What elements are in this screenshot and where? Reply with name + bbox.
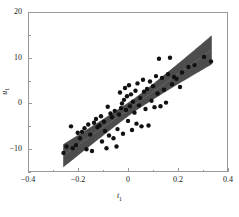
data-point bbox=[209, 59, 213, 63]
data-point bbox=[157, 57, 161, 61]
data-point bbox=[110, 115, 114, 119]
data-point bbox=[162, 88, 166, 92]
plot-frame bbox=[28, 12, 228, 172]
data-point bbox=[78, 136, 82, 140]
data-point bbox=[106, 105, 110, 109]
data-point bbox=[129, 92, 133, 96]
data-point bbox=[151, 84, 155, 88]
data-point bbox=[138, 96, 142, 100]
data-point bbox=[158, 104, 162, 108]
data-point bbox=[61, 151, 65, 155]
x-axis-minor-tick bbox=[53, 170, 54, 173]
data-point bbox=[90, 149, 94, 153]
data-point bbox=[178, 85, 182, 89]
data-point bbox=[107, 133, 111, 137]
data-point bbox=[155, 91, 159, 95]
data-point bbox=[104, 146, 108, 150]
data-point bbox=[192, 63, 196, 67]
x-axis-tick-label: 0.2 bbox=[162, 176, 194, 184]
y-axis-major-tick bbox=[28, 58, 32, 59]
data-point bbox=[126, 119, 130, 123]
data-point bbox=[115, 127, 119, 131]
x-axis-tick-label: −0.4 bbox=[12, 176, 44, 184]
plot-canvas bbox=[29, 13, 229, 173]
data-point bbox=[76, 131, 80, 135]
data-point bbox=[149, 99, 153, 103]
data-point bbox=[148, 79, 152, 83]
data-point bbox=[124, 108, 128, 112]
data-point bbox=[160, 76, 164, 80]
data-point bbox=[86, 122, 90, 126]
data-point bbox=[103, 129, 107, 133]
y-axis-minor-tick bbox=[28, 172, 31, 173]
data-point bbox=[202, 55, 206, 59]
data-point bbox=[123, 86, 127, 90]
data-point bbox=[88, 132, 92, 136]
x-axis-major-tick bbox=[78, 168, 79, 172]
y-axis-tick-label: −10 bbox=[0, 145, 22, 153]
y-axis-tick-label: 10 bbox=[0, 54, 22, 62]
data-point bbox=[64, 144, 68, 148]
y-axis-minor-tick bbox=[28, 35, 31, 36]
y-axis-minor-tick bbox=[28, 126, 31, 127]
data-point bbox=[174, 77, 178, 81]
data-point bbox=[141, 78, 145, 82]
data-point bbox=[143, 107, 147, 111]
y-axis-label-text: u bbox=[0, 91, 9, 95]
x-axis-label-subscript: 1 bbox=[119, 196, 122, 202]
data-point bbox=[154, 74, 158, 78]
data-point bbox=[180, 70, 184, 74]
data-point bbox=[139, 124, 143, 128]
x-axis-minor-tick bbox=[203, 170, 204, 173]
scatter-plot-figure: −0.4−0.200.20.4−1001020 t1 u1 bbox=[0, 0, 239, 217]
data-point bbox=[97, 123, 101, 127]
data-point bbox=[166, 72, 170, 76]
x-axis-tick-label: −0.2 bbox=[62, 176, 94, 184]
data-point bbox=[134, 121, 138, 125]
data-point bbox=[99, 114, 103, 118]
data-point bbox=[84, 147, 88, 151]
x-axis-major-tick bbox=[228, 168, 229, 172]
data-point bbox=[121, 131, 125, 135]
x-axis-major-tick bbox=[128, 168, 129, 172]
data-point bbox=[114, 144, 118, 148]
x-axis-tick-label: 0 bbox=[112, 176, 144, 184]
data-point bbox=[127, 83, 131, 87]
data-point bbox=[100, 139, 104, 143]
data-point bbox=[117, 112, 121, 116]
x-axis-minor-tick bbox=[103, 170, 104, 173]
data-point bbox=[119, 106, 123, 110]
data-point bbox=[131, 99, 135, 103]
data-point bbox=[94, 117, 98, 121]
y-axis-major-tick bbox=[28, 12, 32, 13]
data-point bbox=[122, 98, 126, 102]
data-point bbox=[146, 123, 150, 127]
data-point bbox=[132, 110, 136, 114]
data-point bbox=[82, 126, 86, 130]
x-axis-label: t1 bbox=[0, 191, 239, 202]
data-point bbox=[186, 65, 190, 69]
data-point bbox=[168, 56, 172, 60]
data-point bbox=[71, 146, 75, 150]
x-axis-minor-tick bbox=[153, 170, 154, 173]
data-point bbox=[69, 124, 73, 128]
data-point bbox=[152, 105, 156, 109]
data-point bbox=[128, 104, 132, 108]
data-point bbox=[111, 136, 115, 140]
y-axis-major-tick bbox=[28, 103, 32, 104]
y-axis-tick-label: 20 bbox=[0, 8, 22, 16]
data-point bbox=[80, 130, 84, 134]
y-axis-label: u1 bbox=[0, 80, 10, 102]
data-point bbox=[145, 87, 149, 91]
data-point bbox=[130, 128, 134, 132]
data-point bbox=[164, 100, 168, 104]
y-axis-major-tick bbox=[28, 149, 32, 150]
data-point bbox=[102, 120, 106, 124]
y-axis-label-subscript: 1 bbox=[4, 88, 10, 91]
data-point bbox=[118, 90, 122, 94]
x-axis-tick-label: 0.4 bbox=[212, 176, 239, 184]
x-axis-major-tick bbox=[178, 168, 179, 172]
data-point bbox=[133, 89, 137, 93]
data-point bbox=[113, 109, 117, 113]
data-point bbox=[135, 81, 139, 85]
